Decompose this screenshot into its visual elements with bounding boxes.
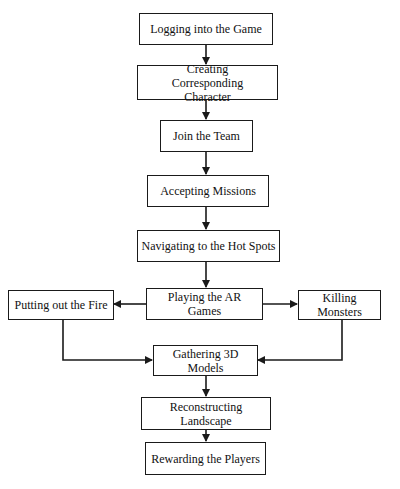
arrow-monsters-gather bbox=[258, 320, 342, 360]
arrow-fire-gather bbox=[63, 320, 152, 360]
node-creating-character: Creating Corresponding Character bbox=[137, 65, 278, 100]
node-gathering-3d-models: Gathering 3D Models bbox=[153, 345, 258, 376]
node-killing-monsters: Killing Monsters bbox=[298, 290, 381, 320]
node-navigating-hot-spots: Navigating to the Hot Spots bbox=[137, 230, 280, 262]
node-label: Creating Corresponding Character bbox=[152, 62, 263, 104]
node-label: Reconstructing Landscape bbox=[145, 400, 267, 428]
flowchart: Logging into the Game Creating Correspon… bbox=[0, 0, 400, 489]
node-label: Putting out the Fire bbox=[15, 298, 108, 312]
node-label: Navigating to the Hot Spots bbox=[142, 239, 276, 253]
node-logging-into-game: Logging into the Game bbox=[139, 13, 273, 45]
node-label: Join the Team bbox=[173, 129, 240, 143]
node-label: Logging into the Game bbox=[150, 22, 262, 36]
node-join-team: Join the Team bbox=[160, 120, 253, 152]
node-rewarding-players: Rewarding the Players bbox=[145, 442, 266, 475]
node-label: Killing Monsters bbox=[302, 291, 377, 319]
node-label: Gathering 3D Models bbox=[157, 347, 254, 375]
node-label: Playing the AR Games bbox=[150, 290, 259, 318]
node-putting-out-fire: Putting out the Fire bbox=[8, 290, 114, 320]
node-playing-ar-games: Playing the AR Games bbox=[146, 288, 263, 320]
node-label: Accepting Missions bbox=[160, 184, 256, 198]
node-reconstructing-landscape: Reconstructing Landscape bbox=[141, 397, 271, 430]
node-label: Rewarding the Players bbox=[151, 452, 260, 466]
node-accepting-missions: Accepting Missions bbox=[147, 175, 269, 207]
